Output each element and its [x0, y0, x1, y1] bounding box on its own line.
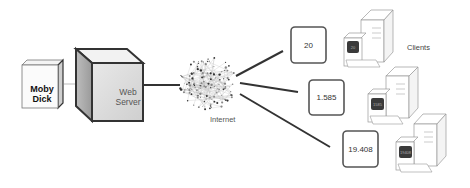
screen-value-1: 20 [347, 41, 359, 53]
book-title-line1: Moby [24, 84, 60, 94]
web-server-label: Web Server [102, 87, 154, 107]
client-count-2: 1.585 [309, 80, 344, 115]
server-label-line2: Server [102, 97, 154, 107]
client-computer-icon [368, 67, 418, 124]
web-server-icon [76, 49, 143, 121]
internet-network-icon [179, 57, 234, 110]
screen-value-2: 1585 [371, 98, 384, 110]
client-count-1: 20 [291, 27, 326, 63]
diagram-canvas: Moby Dick Web Server Internet Clients 20… [0, 0, 470, 188]
client-count-3: 19.408 [343, 131, 378, 167]
book-title-line2: Dick [24, 94, 60, 104]
client-computer-icon [344, 10, 393, 67]
server-label-line1: Web [102, 87, 154, 97]
link-client-1 [236, 51, 283, 76]
screen-value-3: 19408 [399, 146, 412, 158]
client-computer-icon [396, 114, 446, 172]
book-title: Moby Dick [24, 84, 60, 104]
clients-label: Clients [407, 43, 430, 52]
internet-label: Internet [210, 115, 235, 124]
link-client-2 [240, 83, 298, 92]
